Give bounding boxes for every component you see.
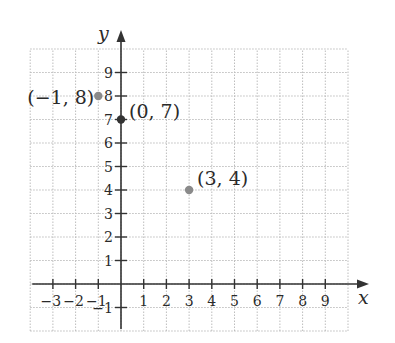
data-point [185,186,193,194]
y-tick-label: 5 [104,159,113,175]
x-tick-label: 9 [321,293,330,309]
x-tick-label: 2 [162,293,171,309]
y-tick-label: 2 [104,229,113,245]
data-point [94,92,102,100]
y-tick-label: 3 [104,206,113,222]
x-tick-label: 8 [298,293,307,309]
y-tick-label: 1 [104,253,113,269]
point-label: (3, 4) [197,167,248,189]
x-tick-label: 6 [253,293,262,309]
y-axis-label: y [97,22,109,44]
y-tick-label: 8 [104,88,113,104]
points: (−1, 8)(0, 7)(3, 4) [27,86,248,194]
coordinate-plane: −3−2−1123456789−1123456789 (−1, 8)(0, 7)… [0,0,395,343]
y-tick-label: 4 [104,182,113,198]
x-tick-label: 4 [207,293,216,309]
x-tick-label: 5 [230,293,239,309]
y-tick-label: 6 [104,135,113,151]
point-label: (0, 7) [129,100,180,122]
x-tick-label: −3 [41,293,62,309]
y-tick-label: −1 [92,300,113,316]
data-point [117,115,125,123]
x-tick-label: −2 [63,293,84,309]
x-tick-label: 3 [185,293,194,309]
y-tick-label: 7 [104,112,113,128]
point-label: (−1, 8) [27,86,94,108]
x-tick-label: 1 [139,293,148,309]
x-tick-label: 7 [275,293,284,309]
y-axis-arrow-icon [117,30,126,42]
x-axis-label: x [358,286,369,308]
y-tick-label: 9 [104,65,113,81]
